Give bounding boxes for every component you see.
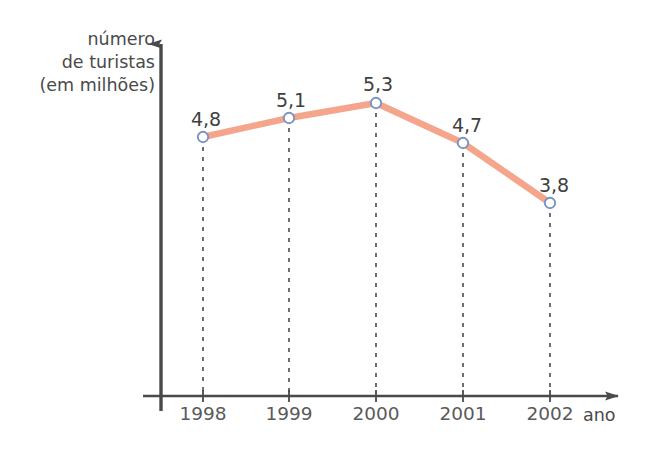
- data-point-2000: [371, 98, 381, 108]
- data-point-1999: [284, 113, 294, 123]
- data-point-1998: [198, 132, 208, 142]
- data-label-1998: 4,8: [191, 108, 221, 130]
- data-label-1999: 5,1: [276, 89, 306, 111]
- y-axis-label: número de turistas (em milhões): [40, 28, 156, 97]
- data-point-2001: [458, 138, 468, 148]
- x-tick-label-1998: 1998: [179, 403, 226, 424]
- data-label-2001: 4,7: [452, 114, 482, 136]
- drop-lines: [203, 103, 550, 392]
- x-axis-label: ano: [583, 404, 616, 427]
- x-tick-label-1999: 1999: [265, 403, 312, 424]
- x-tick-label-2002: 2002: [526, 403, 573, 424]
- y-axis-label-line-1: número: [40, 28, 156, 51]
- y-axis-label-line-2: de turistas: [40, 51, 156, 74]
- data-label-2000: 5,3: [363, 73, 393, 95]
- y-axis-label-line-3: (em milhões): [40, 74, 156, 97]
- tourism-line-chart: número de turistas (em milhões) ano 1998…: [0, 0, 661, 451]
- data-point-2002: [545, 198, 555, 208]
- data-label-2002: 3,8: [539, 174, 569, 196]
- x-tick-label-2001: 2001: [439, 403, 486, 424]
- x-tick-label-2000: 2000: [352, 403, 399, 424]
